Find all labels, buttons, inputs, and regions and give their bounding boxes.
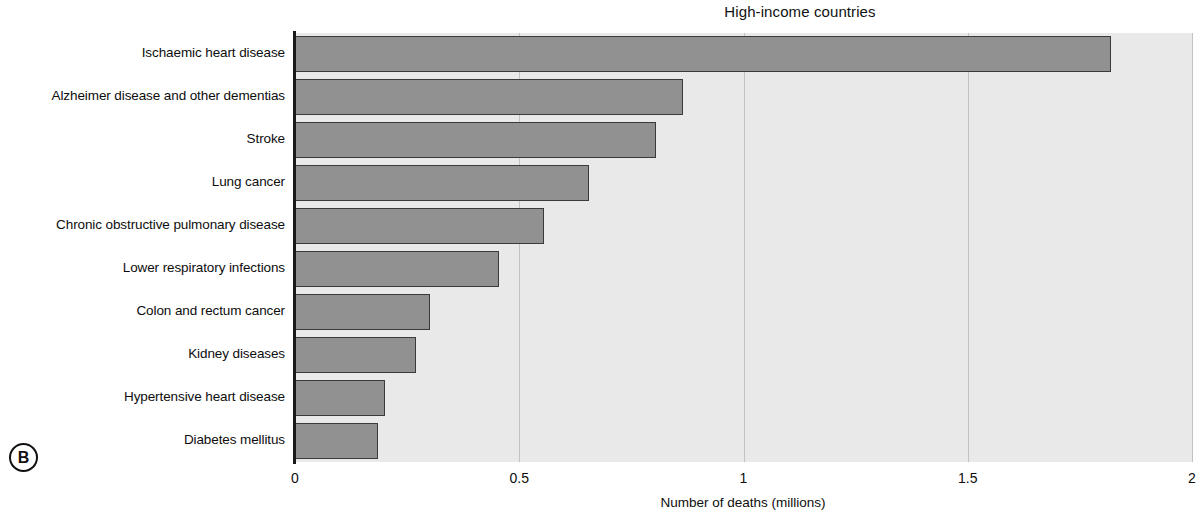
category-label: Chronic obstructive pulmonary disease [0, 217, 285, 232]
bar[interactable] [295, 36, 1111, 72]
gridline [1192, 33, 1193, 462]
bar-row[interactable] [295, 165, 1192, 201]
figure-panel-b: High-income countries Ischaemic heart di… [0, 0, 1204, 518]
bar-row[interactable] [295, 380, 1192, 416]
bar[interactable] [295, 165, 589, 201]
category-label: Alzheimer disease and other dementias [0, 88, 285, 103]
chart-title: High-income countries [620, 3, 980, 20]
category-label: Kidney diseases [0, 346, 285, 361]
bar-row[interactable] [295, 122, 1192, 158]
x-tick-label: 0 [265, 470, 325, 486]
category-label: Colon and rectum cancer [0, 303, 285, 318]
panel-marker-b: B [9, 443, 38, 472]
x-tick-label: 1 [714, 470, 774, 486]
category-label: Hypertensive heart disease [0, 389, 285, 404]
category-label: Lung cancer [0, 174, 285, 189]
bar[interactable] [295, 380, 385, 416]
bar-row[interactable] [295, 251, 1192, 287]
bar[interactable] [295, 122, 656, 158]
x-tick-label: 1.5 [938, 470, 998, 486]
bar[interactable] [295, 251, 499, 287]
bar[interactable] [295, 208, 544, 244]
category-label: Stroke [0, 131, 285, 146]
bar-row[interactable] [295, 79, 1192, 115]
bar[interactable] [295, 423, 378, 459]
bar-row[interactable] [295, 294, 1192, 330]
category-label: Lower respiratory infections [0, 260, 285, 275]
plot-area [295, 33, 1192, 462]
category-label: Ischaemic heart disease [0, 45, 285, 60]
bar[interactable] [295, 79, 683, 115]
bar-row[interactable] [295, 337, 1192, 373]
x-tick-label: 2 [1162, 470, 1204, 486]
x-axis-title: Number of deaths (millions) [493, 495, 993, 510]
y-axis-line [293, 31, 296, 464]
bar-row[interactable] [295, 208, 1192, 244]
bar-row[interactable] [295, 36, 1192, 72]
bar[interactable] [295, 337, 416, 373]
x-tick-label: 0.5 [489, 470, 549, 486]
category-label: Diabetes mellitus [0, 432, 285, 447]
bar[interactable] [295, 294, 430, 330]
bar-row[interactable] [295, 423, 1192, 459]
